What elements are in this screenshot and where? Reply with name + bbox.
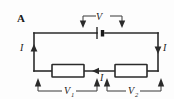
- bracket-v2-left-arrow-icon: [104, 78, 110, 87]
- panel-letter: A: [17, 12, 25, 24]
- current-label-bottom: I: [99, 72, 104, 83]
- current-arrow-left-icon: [31, 44, 38, 52]
- resistor1-voltage-subscript: 1: [71, 91, 74, 98]
- current-label-right: I: [162, 42, 167, 53]
- current-label-left: I: [19, 42, 24, 53]
- resistor-left: [52, 65, 84, 78]
- current-arrow-bottom-icon: [92, 68, 99, 74]
- source-voltage-label: V: [96, 11, 104, 22]
- bracket-v1-left-arrow-icon: [35, 78, 41, 87]
- current-arrow-right-icon: [155, 47, 162, 55]
- bracket-v-left-arrow-icon: [80, 21, 86, 29]
- resistor-right: [115, 65, 147, 78]
- bracket-v-right-arrow-icon: [119, 21, 125, 29]
- resistor2-voltage-subscript: 2: [135, 91, 139, 98]
- circuit-diagram-figure: A I I I: [0, 0, 174, 99]
- bracket-v2-right-arrow-icon: [158, 78, 164, 87]
